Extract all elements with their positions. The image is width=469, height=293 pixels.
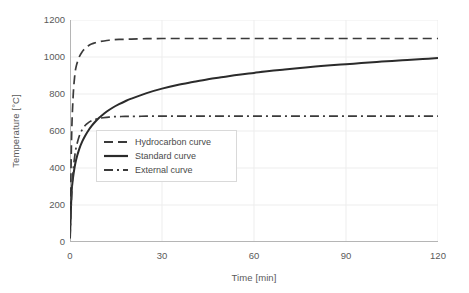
x-axis-title: Time [min]	[70, 272, 438, 283]
y-tick-label: 800	[24, 89, 65, 99]
x-axis-tick-labels: 0306090120	[0, 250, 469, 264]
legend-item-label: External curve	[135, 164, 193, 176]
legend-line-sample-dashdot	[103, 164, 129, 176]
legend-line-sample-dashed	[103, 136, 129, 148]
x-tick-label: 60	[249, 250, 260, 261]
y-tick-label: 0	[24, 237, 65, 247]
x-tick-label: 90	[341, 250, 352, 261]
legend-item[interactable]: Standard curve	[103, 149, 230, 163]
x-tick-label: 30	[157, 250, 168, 261]
y-tick-label: 1200	[24, 15, 65, 25]
fire-curve-chart-figure: Temperature [°C] Time [min] 020040060080…	[0, 0, 469, 293]
x-tick-label: 0	[67, 250, 72, 261]
legend-item[interactable]: Hydrocarbon curve	[103, 135, 230, 149]
legend-line-sample-solid	[103, 150, 129, 162]
y-tick-label: 400	[24, 163, 65, 173]
y-tick-label: 1000	[24, 52, 65, 62]
legend-item[interactable]: External curve	[103, 163, 230, 177]
y-tick-label: 200	[24, 200, 65, 210]
legend-item-label: Standard curve	[135, 150, 196, 162]
y-axis-title: Temperature [°C]	[9, 20, 23, 242]
legend-item-label: Hydrocarbon curve	[135, 136, 211, 148]
chart-legend: Hydrocarbon curveStandard curveExternal …	[96, 130, 237, 182]
y-tick-label: 600	[24, 126, 65, 136]
x-tick-label: 120	[430, 250, 446, 261]
